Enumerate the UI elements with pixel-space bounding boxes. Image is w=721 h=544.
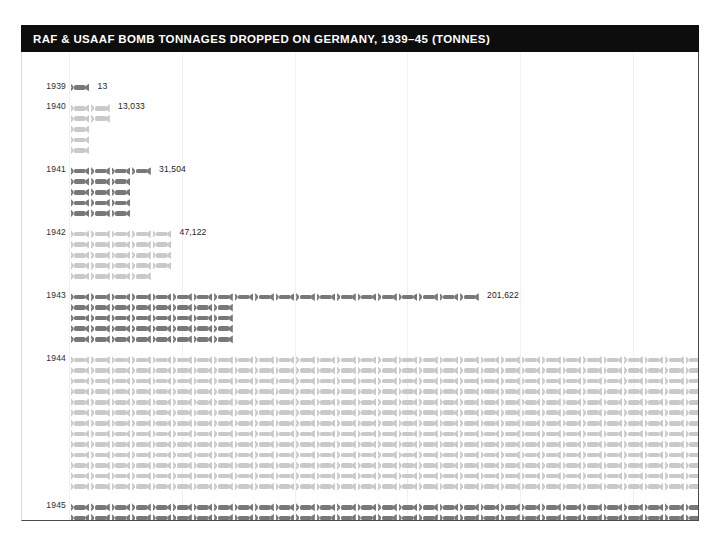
bomb-icon	[419, 293, 440, 302]
bomb-icon	[234, 356, 255, 365]
bomb-fin-icon	[127, 398, 130, 406]
bomb-icon	[685, 451, 698, 460]
bomb-fin-icon	[311, 462, 314, 470]
bomb-fin-icon	[578, 483, 581, 491]
bomb-fin-icon	[393, 293, 396, 301]
bomb-icon	[562, 482, 583, 491]
bomb-icon	[132, 408, 153, 417]
bomb-icon	[152, 314, 173, 323]
bomb-icon	[644, 513, 665, 520]
bomb-icon	[624, 366, 645, 375]
bomb-fin-icon	[619, 503, 622, 511]
bomb-fin-icon	[496, 451, 499, 459]
bomb-icon	[111, 398, 132, 407]
bomb-fin-icon	[291, 293, 294, 301]
bomb-icon	[91, 377, 112, 386]
bomb-icon	[419, 503, 440, 512]
bomb-fin-icon	[147, 230, 150, 238]
bomb-icon	[255, 366, 276, 375]
bomb-fin-icon	[352, 377, 355, 385]
bomb-icon	[665, 472, 686, 481]
bomb-fin-icon	[455, 377, 458, 385]
bomb-fin-icon	[147, 441, 150, 449]
bomb-icon	[439, 513, 460, 520]
icon-row	[70, 440, 698, 449]
bomb-fin-icon	[209, 441, 212, 449]
bomb-fin-icon	[352, 451, 355, 459]
bomb-fin-icon	[332, 451, 335, 459]
bomb-icon	[193, 377, 214, 386]
bomb-fin-icon	[619, 388, 622, 396]
bomb-fin-icon	[127, 167, 130, 175]
bomb-fin-icon	[209, 335, 212, 343]
bomb-icon	[542, 440, 563, 449]
bomb-icon	[603, 451, 624, 460]
bomb-icon	[91, 209, 112, 218]
bomb-icon	[132, 324, 153, 333]
value-label-1941: 31,504	[159, 164, 186, 174]
bomb-icon	[665, 503, 686, 512]
bomb-icon	[173, 472, 194, 481]
bomb-fin-icon	[250, 483, 253, 491]
bomb-icon	[214, 314, 235, 323]
icon-row	[70, 261, 173, 270]
bomb-fin-icon	[516, 514, 519, 520]
bomb-icon	[214, 482, 235, 491]
bomb-icon	[398, 377, 419, 386]
bomb-fin-icon	[455, 293, 458, 301]
bomb-fin-icon	[516, 367, 519, 375]
bomb-icon	[234, 451, 255, 460]
bomb-icon	[296, 387, 317, 396]
bomb-fin-icon	[639, 462, 642, 470]
bomb-icon	[234, 440, 255, 449]
bomb-fin-icon	[106, 167, 109, 175]
bomb-fin-icon	[250, 419, 253, 427]
bomb-fin-icon	[455, 409, 458, 417]
bomb-icon	[480, 513, 501, 520]
bomb-fin-icon	[209, 514, 212, 520]
bomb-icon	[357, 356, 378, 365]
bomb-fin-icon	[537, 409, 540, 417]
bomb-fin-icon	[557, 483, 560, 491]
bomb-icon	[91, 114, 112, 123]
bomb-fin-icon	[660, 441, 663, 449]
bomb-icon	[255, 408, 276, 417]
bomb-icon	[152, 513, 173, 520]
bomb-fin-icon	[393, 430, 396, 438]
bomb-icon	[542, 419, 563, 428]
page-title: RAF & USAAF BOMB TONNAGES DROPPED ON GER…	[33, 33, 490, 45]
bomb-fin-icon	[188, 419, 191, 427]
bomb-fin-icon	[168, 398, 171, 406]
bomb-icon	[132, 356, 153, 365]
bomb-fin-icon	[106, 398, 109, 406]
bomb-icon	[521, 440, 542, 449]
bomb-icon	[460, 293, 481, 302]
bomb-icon	[173, 324, 194, 333]
bomb-icon	[439, 440, 460, 449]
bomb-fin-icon	[147, 251, 150, 259]
bomb-fin-icon	[250, 388, 253, 396]
bomb-icon	[480, 451, 501, 460]
bomb-fin-icon	[86, 230, 89, 238]
bomb-icon	[214, 513, 235, 520]
bomb-icon	[214, 356, 235, 365]
bomb-icon	[501, 472, 522, 481]
bomb-fin-icon	[537, 503, 540, 511]
bomb-fin-icon	[229, 419, 232, 427]
bomb-fin-icon	[291, 398, 294, 406]
bomb-fin-icon	[352, 356, 355, 364]
bomb-icon	[152, 461, 173, 470]
icon-row	[70, 398, 698, 407]
bomb-icon	[644, 377, 665, 386]
bomb-fin-icon	[291, 441, 294, 449]
bomb-icon	[193, 461, 214, 470]
bomb-fin-icon	[660, 409, 663, 417]
bomb-icon	[132, 482, 153, 491]
bomb-icon	[275, 419, 296, 428]
bomb-fin-icon	[598, 514, 601, 520]
bomb-icon	[419, 461, 440, 470]
bomb-fin-icon	[475, 451, 478, 459]
bomb-icon	[337, 440, 358, 449]
bomb-icon	[70, 135, 91, 144]
bomb-icon	[439, 366, 460, 375]
